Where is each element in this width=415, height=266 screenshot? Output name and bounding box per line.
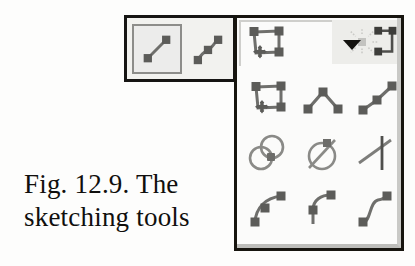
sketch-toolbar [124,15,236,82]
palette-item-angle-polyline[interactable] [297,76,349,124]
sketching-tools-flyout [234,15,404,251]
line-segment-icon [134,26,180,72]
palette-item-circle-with-chord[interactable] [297,130,349,178]
polygon-move-icon [241,22,293,68]
palette-header-current-tool[interactable] [239,20,332,66]
arc-spline-icon [243,184,295,232]
figure-caption: Fig. 12.9. The sketching tools [24,168,229,234]
palette-item-tangent-circles[interactable] [243,130,295,178]
tangent-arc-icon [297,184,349,232]
tool-button-line[interactable] [132,24,182,74]
palette-header [237,18,401,68]
overlapping-circles-icon [243,130,295,178]
tool-button-spline[interactable] [183,24,233,74]
angle-polyline-icon [297,76,349,124]
palette-item-sketch-polygon[interactable] [243,76,295,124]
polygon-partial-icon [373,20,399,64]
palette-item-tangent-arc[interactable] [297,184,349,232]
caption-line-1: Fig. 12.9. The [24,168,229,201]
figure-page: Fig. 12.9. The sketching tools [0,0,415,266]
chevron-down-icon[interactable] [343,40,361,50]
palette-item-s-curve-spline[interactable] [351,184,403,232]
cross-intersection-icon [351,130,403,178]
two-segment-line-icon [351,76,403,124]
palette-item-arc-spline[interactable] [243,184,295,232]
caption-line-2: sketching tools [24,201,229,234]
circle-diagonal-icon [297,130,349,178]
s-curve-spline-icon [351,184,403,232]
spline-curve-icon [185,26,231,72]
palette-item-intersection[interactable] [351,130,403,178]
polygon-move-icon [243,76,295,124]
palette-item-two-segment-line[interactable] [351,76,403,124]
